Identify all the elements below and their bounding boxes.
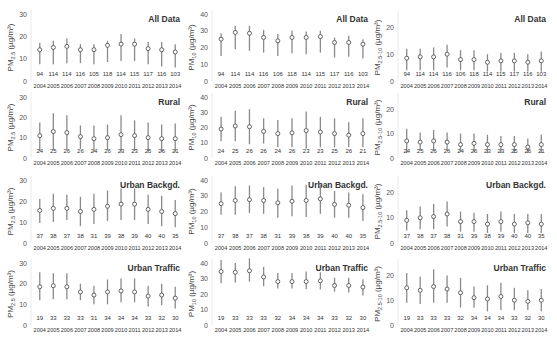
x-tick-label: 2014 xyxy=(169,83,181,89)
sample-count: 103 xyxy=(170,71,181,77)
x-tick-label: 2004 xyxy=(34,245,46,251)
sample-count: 30 xyxy=(538,315,545,321)
x-tick-label: 2013 xyxy=(155,83,167,89)
sample-count: 34 xyxy=(289,315,296,321)
y-tick-label: 10 xyxy=(200,61,208,68)
sample-count: 94 xyxy=(36,71,43,77)
x-tick-label: 2006 xyxy=(61,327,73,333)
y-tick-label: 0 xyxy=(23,155,27,162)
y-axis-label: PM2.5-10 (µg/m³) xyxy=(373,99,383,155)
data-point xyxy=(432,215,436,219)
y-tick-label: 30 xyxy=(200,275,208,282)
sample-count: 37 xyxy=(246,233,253,239)
data-point xyxy=(247,198,251,202)
x-tick-label: 2007 xyxy=(257,83,269,89)
y-tick-label: 40 xyxy=(200,260,208,267)
x-tick-label: 2006 xyxy=(427,160,439,166)
y-tick-label: 20 xyxy=(386,189,394,196)
y-tick-label: 30 xyxy=(200,27,208,34)
panel-title: Urban Traffic xyxy=(128,263,181,273)
data-point xyxy=(233,270,237,274)
data-point xyxy=(445,212,449,216)
data-point xyxy=(333,202,337,206)
x-tick-label: 2006 xyxy=(427,327,439,333)
panel-title: Urban Traffic xyxy=(494,263,547,273)
sample-count: 38 xyxy=(484,233,491,239)
x-tick-label: 2005 xyxy=(47,83,59,89)
y-tick-label: 40 xyxy=(200,11,208,18)
panel-4-1: 0102030PM2.5 (µg/m³)Urban Traffic1920043… xyxy=(6,259,181,333)
sample-count: 106 xyxy=(273,71,284,77)
sample-count: 116 xyxy=(157,71,167,77)
sample-count: 115 xyxy=(496,71,506,77)
x-tick-label: 2008 xyxy=(88,160,100,166)
sample-count: 31 xyxy=(91,233,98,239)
sample-count: 37 xyxy=(403,233,410,239)
data-point xyxy=(304,35,308,39)
sample-count: 33 xyxy=(64,315,71,321)
data-point xyxy=(499,220,503,224)
sample-count: 25 xyxy=(145,148,152,154)
x-tick-label: 2005 xyxy=(414,245,426,251)
data-point xyxy=(92,48,96,52)
x-tick-label: 2008 xyxy=(272,160,284,166)
y-tick-label: 10 xyxy=(200,139,208,146)
sample-count: 21 xyxy=(360,148,367,154)
data-point xyxy=(262,35,266,39)
data-point xyxy=(432,55,436,59)
x-tick-label: 2009 xyxy=(468,160,480,166)
sample-count: 40 xyxy=(511,233,518,239)
data-point xyxy=(290,199,294,203)
x-tick-label: 2006 xyxy=(243,160,255,166)
x-tick-label: 2012 xyxy=(142,327,154,333)
data-point xyxy=(119,289,123,293)
data-point xyxy=(445,287,449,291)
y-tick-label: 10 xyxy=(19,301,27,308)
x-tick-label: 2008 xyxy=(88,83,100,89)
x-tick-label: 2012 xyxy=(328,160,340,166)
x-tick-label: 2006 xyxy=(427,245,439,251)
data-point xyxy=(146,47,150,51)
x-tick-label: 2014 xyxy=(169,160,181,166)
data-point xyxy=(133,290,137,294)
x-tick-label: 2007 xyxy=(74,83,86,89)
x-tick-label: 2006 xyxy=(243,245,255,251)
x-tick-label: 2007 xyxy=(441,327,453,333)
x-tick-label: 2014 xyxy=(169,245,181,251)
data-point xyxy=(247,31,251,35)
sample-count: 19 xyxy=(36,315,43,321)
data-point xyxy=(78,135,82,139)
data-point xyxy=(92,207,96,211)
data-point xyxy=(361,206,365,210)
x-tick-label: 2009 xyxy=(468,327,480,333)
data-point xyxy=(472,220,476,224)
data-point xyxy=(233,124,237,128)
sample-count: 25 xyxy=(50,148,57,154)
y-axis-label: PM2.5-10 (µg/m³) xyxy=(373,183,383,239)
panel-title: Urban Backgd. xyxy=(486,180,546,190)
figure-grid: 0102030PM2.5 (µg/m³)All Data942004114200… xyxy=(0,0,557,339)
x-tick-label: 2010 xyxy=(300,83,312,89)
sample-count: 31 xyxy=(457,233,464,239)
y-axis-label: PM2.5 (µg/m³) xyxy=(6,103,16,151)
y-tick-label: 10 xyxy=(386,214,394,221)
x-tick-label: 2007 xyxy=(257,327,269,333)
data-point xyxy=(119,133,123,137)
data-point xyxy=(290,280,294,284)
y-tick-label: 20 xyxy=(19,33,27,40)
y-tick-label: 0 xyxy=(23,78,27,85)
data-point xyxy=(78,290,82,294)
sample-count: 114 xyxy=(230,71,240,77)
data-point xyxy=(276,201,280,205)
sample-count: 24 xyxy=(91,148,98,154)
x-tick-label: 2005 xyxy=(229,160,241,166)
sample-count: 24 xyxy=(218,148,225,154)
x-tick-label: 2005 xyxy=(47,245,59,251)
sample-count: 116 xyxy=(442,71,452,77)
sample-count: 26 xyxy=(158,148,165,154)
data-point xyxy=(526,221,530,225)
sample-count: 32 xyxy=(274,315,281,321)
x-tick-label: 2013 xyxy=(522,327,534,333)
x-tick-label: 2007 xyxy=(441,245,453,251)
data-point xyxy=(51,206,55,210)
